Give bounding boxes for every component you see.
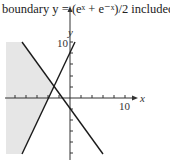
x-axis-arrow-icon [132,96,138,101]
chart-plot: 10 10 x y [0,0,170,163]
y-axis-arrow-icon [68,6,73,12]
x-tick-label: 10 [119,100,131,112]
y-axis-label: y [67,26,73,38]
y-tick-label: 10 [57,37,69,49]
x-axis-label: x [139,92,145,104]
